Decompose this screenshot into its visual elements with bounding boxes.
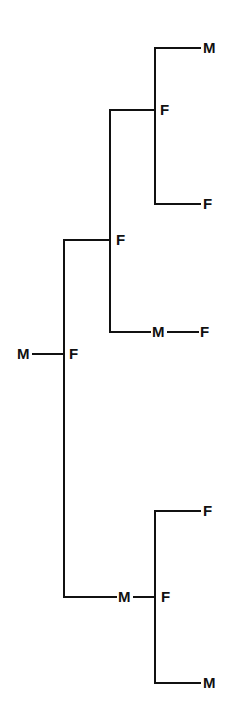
pedigree-edges-layer: [0, 0, 241, 726]
node-m-lower-pair: M: [118, 589, 131, 604]
node-m-mid-pair: M: [152, 324, 165, 339]
node-f-lower-upper-leaf: F: [203, 503, 212, 518]
node-f-mid-pair: F: [200, 324, 209, 339]
node-f-upper-lower-leaf: F: [203, 196, 212, 211]
node-m-bottom-leaf: M: [203, 675, 216, 690]
edges-group: [33, 48, 200, 683]
node-f-root: F: [69, 346, 78, 361]
node-m-root-pair: M: [17, 346, 30, 361]
node-m-top-right: M: [203, 40, 216, 55]
pedigree-diagram: MFFFMFMFFMFM: [0, 0, 241, 726]
node-f-upper-branch: F: [160, 102, 169, 117]
node-f-upper-mid-branch: F: [116, 232, 125, 247]
node-f-lower-branch: F: [161, 589, 170, 604]
